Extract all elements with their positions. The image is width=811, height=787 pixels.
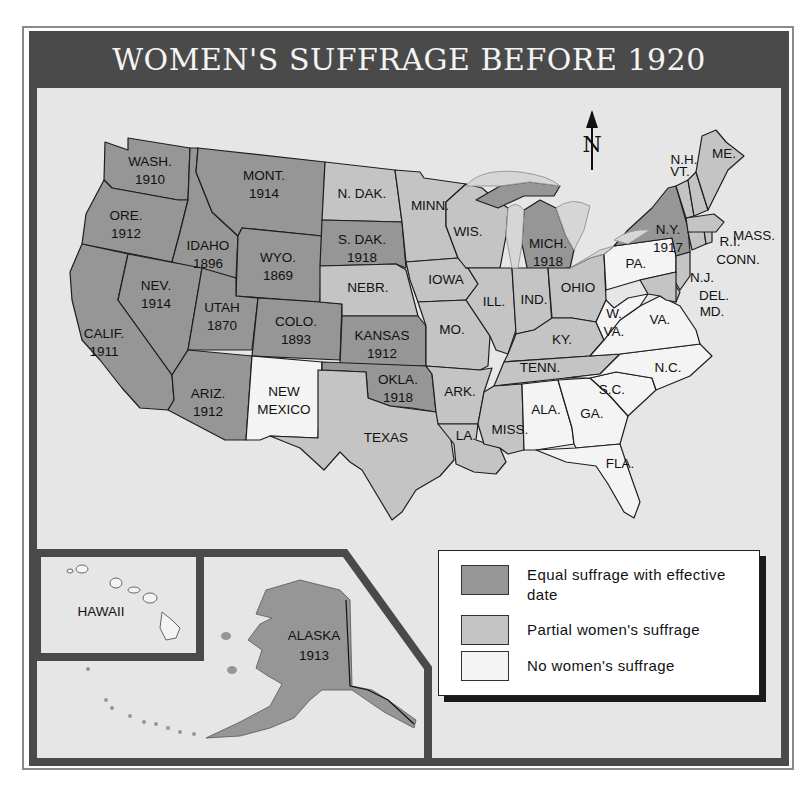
state-year-label: 1918 xyxy=(533,254,563,269)
state-name-label: ME. xyxy=(712,146,736,161)
state-name-label: MICH. xyxy=(529,236,567,251)
state-name-label: OHIO xyxy=(561,280,596,295)
states-layer xyxy=(70,130,744,520)
state-year-label: 1912 xyxy=(111,226,141,241)
state-name-label: DEL. xyxy=(699,288,729,303)
state-year-label: 1870 xyxy=(207,318,237,333)
lake-superior xyxy=(466,171,560,186)
state-name-label: WYO. xyxy=(260,250,296,265)
state-year-label: 1912 xyxy=(367,346,397,361)
state-name-label: IND. xyxy=(521,292,548,307)
state-name-label: PA. xyxy=(626,256,647,271)
state-name-label: NEV. xyxy=(141,278,171,293)
state-name-label: ARIZ. xyxy=(191,386,226,401)
state-name-label: W. xyxy=(606,306,622,321)
state-name-label: TENN. xyxy=(520,360,561,375)
state-name-label: ARK. xyxy=(444,384,476,399)
state-name-label: NEBR. xyxy=(347,280,388,295)
state-name-label: N.J. xyxy=(690,270,714,285)
state-name-label: S.C. xyxy=(599,382,625,397)
north-arrow-icon: N xyxy=(582,110,601,170)
legend-label-partial: Partial women's suffrage xyxy=(527,615,700,640)
state-name-label: FLA. xyxy=(606,456,635,471)
hawaii-islands xyxy=(67,565,180,640)
state-name-label: WASH. xyxy=(128,154,172,169)
state-name-label: KY. xyxy=(552,332,572,347)
state-name-label: MD. xyxy=(700,304,725,319)
state-year-label: 1869 xyxy=(263,268,293,283)
state-name-label: CALIF. xyxy=(84,326,125,341)
legend-item-none: No women's suffrage xyxy=(461,651,675,681)
state-name-label: WIS. xyxy=(453,224,482,239)
hawaii-label: HAWAII xyxy=(78,604,125,619)
state-name-label: ORE. xyxy=(109,208,142,223)
state-name-label: VA. xyxy=(604,324,625,339)
legend-label-none: No women's suffrage xyxy=(527,651,675,676)
state-name-label: ILL. xyxy=(483,294,506,309)
state-wyoming[interactable] xyxy=(236,228,322,302)
legend-swatch-equal xyxy=(461,565,509,595)
state-name-label: TEXAS xyxy=(364,430,408,445)
state-year-label: 1914 xyxy=(141,296,172,311)
state-year-label: 1918 xyxy=(383,390,413,405)
lake-michigan xyxy=(506,204,524,268)
state-mississippi[interactable] xyxy=(478,384,524,454)
state-name-label: OKLA. xyxy=(378,372,418,387)
state-name-label: ALA. xyxy=(531,402,560,417)
legend-swatch-partial xyxy=(461,615,509,645)
alaska-year: 1913 xyxy=(299,648,329,663)
state-name-label: NEW xyxy=(268,384,300,399)
state-connecticut[interactable] xyxy=(688,230,706,250)
state-year-label: 1910 xyxy=(135,172,165,187)
state-colorado[interactable] xyxy=(252,298,342,360)
state-name-label: GA. xyxy=(580,406,603,421)
state-name-label: MONT. xyxy=(243,168,285,183)
state-name-label: IDAHO xyxy=(187,238,230,253)
state-name-label: MISS. xyxy=(492,422,529,437)
state-name-label: N.C. xyxy=(655,360,682,375)
state-year-label: 1893 xyxy=(281,332,311,347)
state-year-label: 1896 xyxy=(193,256,223,271)
state-year-label: 1911 xyxy=(89,344,118,359)
state-name-label: MO. xyxy=(439,322,465,337)
state-name-label: UTAH xyxy=(204,300,240,315)
state-year-label: 1914 xyxy=(249,186,280,201)
compass-label: N xyxy=(582,132,601,157)
insets: HAWAII ALASKA 1913 xyxy=(37,553,428,758)
map-title: WOMEN'S SUFFRAGE BEFORE 1920 xyxy=(112,42,705,77)
state-name-label: MINN. xyxy=(411,198,449,213)
legend-swatch-none xyxy=(461,651,509,681)
state-name-label: S. DAK. xyxy=(338,232,386,247)
state-year-label: 1917 xyxy=(653,240,683,255)
state-name-label: N. DAK. xyxy=(338,186,387,201)
state-name-label: MEXICO xyxy=(257,402,310,417)
state-name-label: IOWA xyxy=(428,272,464,287)
legend-item-partial: Partial women's suffrage xyxy=(461,615,700,645)
state-name-label: COLO. xyxy=(275,314,317,329)
legend-item-equal: Equal suffrage with effective date xyxy=(461,565,727,605)
state-name-label: KANSAS xyxy=(355,328,410,343)
state-name-label: MASS. xyxy=(733,228,775,243)
legend-label-equal: Equal suffrage with effective date xyxy=(527,565,727,605)
aleutian-islands xyxy=(86,632,237,736)
state-name-label: N.H. xyxy=(671,152,698,167)
title-bar: WOMEN'S SUFFRAGE BEFORE 1920 xyxy=(29,31,789,87)
alaska-label: ALASKA xyxy=(288,628,341,643)
state-name-label: LA. xyxy=(456,428,476,443)
state-name-label: VA. xyxy=(650,312,671,327)
legend: Equal suffrage with effective date Parti… xyxy=(438,550,760,696)
state-name-label: N.Y. xyxy=(656,222,681,237)
state-name-label: CONN. xyxy=(716,252,760,267)
state-year-label: 1918 xyxy=(347,250,377,265)
state-year-label: 1912 xyxy=(193,404,223,419)
